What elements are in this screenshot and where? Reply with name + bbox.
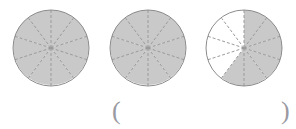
answer-close-paren: ) xyxy=(281,96,290,126)
figure-group xyxy=(0,8,296,94)
circle-model-3 xyxy=(204,8,284,88)
circle-model-2 xyxy=(108,8,188,88)
cut-off-header-text xyxy=(0,0,296,3)
circle-model-1 xyxy=(11,8,91,88)
answer-row: ( ) xyxy=(0,96,296,129)
circle-model-3-svg xyxy=(204,8,284,88)
answer-open-paren: ( xyxy=(112,96,121,126)
circle-model-1-svg xyxy=(11,8,91,88)
circle-model-2-svg xyxy=(108,8,188,88)
